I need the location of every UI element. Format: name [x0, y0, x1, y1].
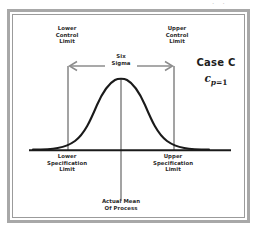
lower-control-limit-label: Lower Control Limit [35, 25, 99, 45]
scan-artifact: · · [212, 1, 254, 8]
case-annotation: Case C cp=1 [185, 57, 247, 90]
case-title: Case C [185, 57, 247, 69]
lower-specification-limit-label: Lower Specification Limit [33, 153, 101, 173]
upper-specification-limit-label: Upper Specification Limit [139, 153, 207, 173]
figure-frame: Lower Control Limit Upper Control Limit … [7, 9, 250, 223]
cp-formula: cp=1 [185, 71, 247, 90]
figure-inner-border: Lower Control Limit Upper Control Limit … [12, 14, 245, 218]
process-capability-chart: Lower Control Limit Upper Control Limit … [13, 15, 244, 217]
cp-relation: =1 [216, 78, 228, 87]
upper-control-limit-label: Upper Control Limit [145, 25, 209, 45]
chart-drawing [13, 15, 248, 221]
six-sigma-label: Six Sigma [98, 53, 144, 66]
actual-mean-label: Actual Mean Of Process [87, 198, 155, 211]
